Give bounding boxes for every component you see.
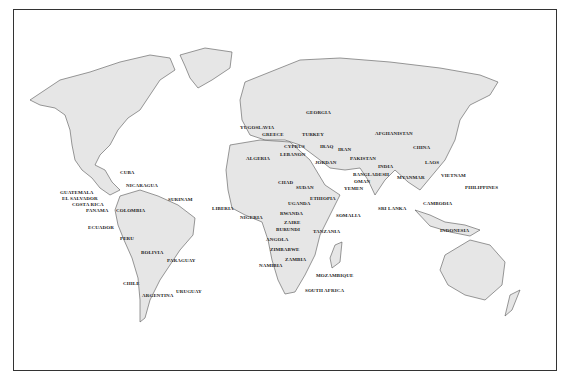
country-label-paraguay: PARAGUAY [167,258,196,263]
country-label-bolivia: BOLIVIA [141,250,163,255]
country-label-guatemala: GUATEMALA [60,190,94,195]
country-label-peru: PERU [120,236,134,241]
country-label-algeria: ALGERIA [246,156,270,161]
country-label-lebanon: LEBANON [280,152,305,157]
country-label-el-salvador: EL SALVADOR [62,196,98,201]
country-label-rwanda: RWANDA [280,211,303,216]
madagascar [330,242,342,268]
country-label-greece: GREECE [262,132,284,137]
country-label-tanzania: TANZANIA [313,229,340,234]
country-label-sudan: SUDAN [296,185,314,190]
country-label-laos: LAOS [425,160,439,165]
country-label-turkey: TURKEY [302,132,324,137]
country-label-uganda: UGANDA [288,201,311,206]
country-label-uruguay: URUGUAY [176,289,202,294]
country-label-chad: CHAD [278,180,293,185]
country-label-ethiopia: ETHIOPIA [310,196,336,201]
country-label-costa-rica: COSTA RICA [72,202,104,207]
country-label-bangladesh: BANGLADESH [353,172,389,177]
australia [440,240,505,300]
country-label-surinam: SURINAM [168,197,193,202]
country-label-jordan: JORDAN [315,160,336,165]
country-label-south-africa: SOUTH AFRICA [305,288,344,293]
country-label-sri-lanka: SRI LANKA [378,206,407,211]
country-label-chile: CHILE [123,281,140,286]
greenland [180,48,232,88]
country-label-zaire: ZAIRE [284,220,300,225]
country-label-iraq: IRAQ [320,144,333,149]
country-label-angola: ANGOLA [266,237,289,242]
north-america [30,55,175,195]
country-label-china: CHINA [413,145,430,150]
country-label-myanmar: MYANMAR [397,175,425,180]
country-label-liberia: LIBERIA [212,206,234,211]
country-label-vietnam: VIETNAM [441,173,466,178]
country-label-cuba: CUBA [120,170,135,175]
new-zealand [505,290,520,316]
country-label-cyprus: CYPRUS [284,144,305,149]
country-label-afghanistan: AFGHANISTAN [375,131,413,136]
country-label-burundi: BURUNDI [276,227,300,232]
country-label-panama: PANAMA [86,208,108,213]
country-label-philippines: PHILIPPINES [465,185,498,190]
country-label-pakistan: PAKISTAN [350,156,376,161]
country-label-zimbabwe: ZIMBABWE [270,247,299,252]
country-label-mozambique: MOZAMBIQUE [316,273,353,278]
country-label-nigeria: NIGERIA [240,215,263,220]
country-label-ecuador: ECUADOR [88,225,114,230]
country-label-yugoslavia: YUGOSLAVIA [240,125,274,130]
country-label-oman: OMAN [354,179,370,184]
country-label-nicaragua: NICARAGUA [126,183,158,188]
country-label-zambia: ZAMBIA [285,257,306,262]
country-label-namibia: NAMIBIA [259,263,282,268]
country-label-yemen: YEMEN [344,186,363,191]
country-label-cambodia: CAMBODIA [423,201,452,206]
country-label-iran: IRAN [338,147,351,152]
country-label-india: INDIA [378,164,393,169]
country-label-indonesia: INDONESIA [440,228,469,233]
country-label-somalia: SOMALIA [336,213,361,218]
country-label-georgia: GEORGIA [306,110,331,115]
country-label-colombia: COLOMBIA [116,208,145,213]
country-label-argentina: ARGENTINA [142,293,173,298]
